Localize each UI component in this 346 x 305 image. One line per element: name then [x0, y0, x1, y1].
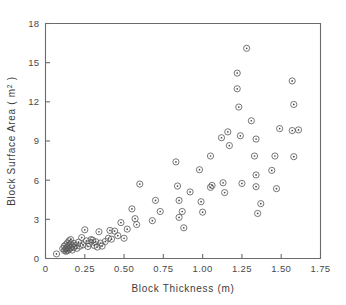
data-point: [251, 153, 257, 159]
data-point-center-dot: [97, 246, 99, 248]
data-point: [196, 167, 202, 173]
data-point-center-dot: [104, 241, 106, 243]
data-point-center-dot: [293, 104, 295, 106]
data-point: [176, 197, 182, 203]
data-point-center-dot: [101, 245, 103, 247]
data-point: [295, 127, 301, 133]
data-point-center-dot: [251, 120, 253, 122]
data-point-center-dot: [260, 203, 262, 205]
data-point: [124, 226, 130, 232]
data-point-center-dot: [81, 237, 83, 239]
data-point-center-dot: [255, 138, 257, 140]
data-point: [255, 210, 261, 216]
data-point-center-dot: [134, 218, 136, 220]
data-point-center-dot: [236, 88, 238, 90]
data-point: [176, 214, 182, 220]
data-point-center-dot: [178, 200, 180, 202]
y-tick-label: 9: [34, 135, 40, 146]
data-point-center-dot: [240, 135, 242, 137]
data-point: [218, 135, 224, 141]
data-point: [121, 235, 127, 241]
data-point: [174, 183, 180, 189]
data-point-center-dot: [238, 106, 240, 108]
data-point-center-dot: [139, 183, 141, 185]
data-point-center-dot: [117, 235, 119, 237]
axis-box: [46, 24, 321, 259]
data-point: [220, 180, 226, 186]
x-tick-label: 1.00: [193, 263, 213, 274]
data-point: [152, 197, 158, 203]
y-tick-label: 18: [28, 18, 39, 29]
data-point-center-dot: [227, 131, 229, 133]
y-tick-labels: 0369121518: [28, 18, 39, 264]
data-point-center-dot: [98, 231, 100, 233]
data-point-center-dot: [291, 80, 293, 82]
y-tick-label: 0: [34, 253, 40, 264]
data-point: [258, 201, 264, 207]
data-point: [53, 251, 59, 257]
data-point-center-dot: [126, 228, 128, 230]
data-point: [115, 233, 121, 239]
data-point: [273, 186, 279, 192]
data-point-center-dot: [177, 185, 179, 187]
plot-canvas: 00.250.500.751.001.251.501.75 0369121518…: [0, 0, 346, 305]
data-point: [134, 221, 140, 227]
data-point-center-dot: [183, 227, 185, 229]
data-point-center-dot: [175, 161, 177, 163]
data-point: [289, 127, 295, 133]
data-point-center-dot: [56, 253, 58, 255]
data-point-center-dot: [229, 145, 231, 147]
y-axis-title-text: Block Surface Area ( m2 ): [6, 76, 17, 206]
data-point-center-dot: [131, 208, 133, 210]
data-point: [225, 129, 231, 135]
data-point-center-dot: [254, 155, 256, 157]
data-point: [207, 153, 213, 159]
data-point: [181, 225, 187, 231]
data-point-center-dot: [199, 169, 201, 171]
data-point: [277, 125, 283, 131]
data-point-center-dot: [224, 192, 226, 194]
data-point-center-dot: [136, 224, 138, 226]
data-point-center-dot: [84, 229, 86, 231]
data-point-center-dot: [189, 191, 191, 193]
data-point-center-dot: [111, 238, 113, 240]
data-point: [272, 153, 278, 159]
data-point: [289, 78, 295, 84]
x-tick-label: 1.25: [232, 263, 252, 274]
data-point-center-dot: [291, 130, 293, 132]
data-point-center-dot: [178, 217, 180, 219]
data-point: [198, 199, 204, 205]
data-point: [253, 172, 259, 178]
data-point: [129, 206, 135, 212]
data-point: [157, 208, 163, 214]
data-point: [222, 189, 228, 195]
data-point: [173, 159, 179, 165]
data-point-center-dot: [159, 211, 161, 213]
y-tick-label: 3: [34, 214, 40, 225]
data-point-center-dot: [257, 213, 259, 215]
y-axis-title: Block Surface Area ( m2 ): [6, 76, 17, 206]
data-point: [269, 167, 275, 173]
data-point-center-dot: [210, 155, 212, 157]
x-tick-label: 0.75: [153, 263, 173, 274]
data-point-center-dot: [120, 222, 122, 224]
data-point-center-dot: [236, 72, 238, 74]
data-point: [253, 184, 259, 190]
data-point: [236, 104, 242, 110]
x-tick-label: 0: [43, 263, 49, 274]
data-point-center-dot: [274, 155, 276, 157]
data-point: [234, 70, 240, 76]
data-point: [179, 208, 185, 214]
data-point-center-dot: [298, 129, 300, 131]
data-point-center-dot: [246, 47, 248, 49]
data-point: [82, 227, 88, 233]
data-point: [96, 229, 102, 235]
y-tick-label: 6: [34, 175, 40, 186]
data-point-center-dot: [241, 183, 243, 185]
data-point-center-dot: [90, 239, 92, 241]
axis-frame: [46, 24, 321, 259]
data-point-center-dot: [293, 156, 295, 158]
data-point-center-dot: [70, 239, 72, 241]
data-point-center-dot: [114, 230, 116, 232]
x-tick-label: 1.50: [271, 263, 291, 274]
